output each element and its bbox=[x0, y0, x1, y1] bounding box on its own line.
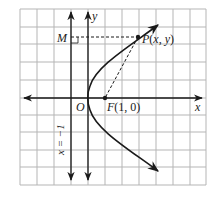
label-directrix: x = −1 bbox=[54, 124, 66, 156]
point-p bbox=[136, 35, 140, 39]
label-point-p: P(x, y) bbox=[141, 32, 174, 46]
right-angle-mark bbox=[71, 37, 78, 43]
label-origin: O bbox=[76, 100, 85, 114]
parabola-diagram: y x O F(1, 0) P(x, y) M x = −1 bbox=[0, 0, 216, 201]
label-focus: F(1, 0) bbox=[106, 100, 140, 114]
label-y-axis: y bbox=[91, 9, 98, 23]
label-x-axis: x bbox=[194, 100, 201, 114]
grid bbox=[20, 9, 206, 185]
label-m: M bbox=[56, 31, 68, 45]
